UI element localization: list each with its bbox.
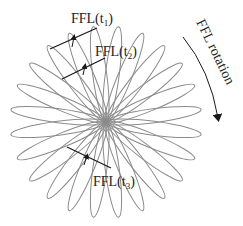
rosette-diagram: FFL(t1) FFL(t2) FFL(t3) FFL rotation [0,0,243,226]
ffl-label-t3: FFL(t3) [93,174,135,191]
rosette-petal [99,121,125,218]
rosette-petal [105,103,202,129]
ffl-label-t2: FFL(t2) [95,44,137,61]
rosette-petal [105,115,202,141]
rotation-indicator: FFL rotation [183,17,238,118]
ffl-t2: FFL(t2) [62,44,137,79]
rosette-petal [10,103,107,129]
rotation-label: FFL rotation [193,17,237,87]
arrow-up-icon [84,156,87,165]
ffl-line-t3 [67,147,111,168]
rosette-petal [87,121,113,218]
rosette-petal [87,26,113,123]
rosette-petal [10,115,107,141]
ffl-t3: FFL(t3) [67,147,135,191]
ffl-label-t1: FFL(t1) [71,11,113,28]
ffl-line-t2 [62,58,105,79]
rosette-petal [99,26,125,123]
arrow-up-icon [83,66,85,75]
